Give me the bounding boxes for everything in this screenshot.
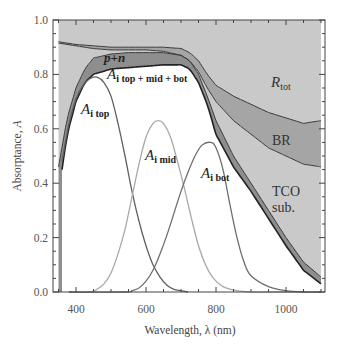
label-p-n: p+n bbox=[103, 50, 125, 65]
label-a-i-bot-sub: i bot bbox=[210, 172, 230, 183]
label-a-i-total-sub: i top + mid + bot bbox=[116, 73, 188, 84]
y-tick-label: 0.4 bbox=[34, 177, 49, 189]
label-tco: TCO bbox=[272, 184, 300, 199]
label-br: BR bbox=[272, 133, 291, 148]
absorptance-chart: 0.0 0.2 0.4 0.6 0.8 1.0 400 600 800 1000… bbox=[0, 0, 340, 347]
y-tick-label: 1.0 bbox=[34, 14, 49, 26]
y-tick-label: 0.0 bbox=[34, 286, 49, 298]
label-a-i-top-sub: i top bbox=[90, 108, 110, 119]
x-tick-label: 400 bbox=[67, 303, 85, 315]
y-axis-title: Absorptance, A bbox=[11, 120, 24, 192]
label-sub: sub. bbox=[272, 200, 295, 215]
x-tick-label: 600 bbox=[137, 303, 155, 315]
y-axis-title-var: A bbox=[11, 120, 23, 129]
x-tick-label: 800 bbox=[207, 303, 225, 315]
y-axis-title-text: Absorptance, bbox=[11, 128, 24, 192]
y-tick-label: 0.6 bbox=[34, 123, 49, 135]
x-axis-title: Wavelength, λ (nm) bbox=[144, 324, 235, 337]
label-r-tot-main: R bbox=[270, 74, 280, 90]
x-tick-label: 1000 bbox=[275, 303, 298, 315]
y-tick-label: 0.8 bbox=[34, 68, 49, 80]
y-tick-label: 0.2 bbox=[34, 232, 49, 244]
label-a-i-mid-sub: i mid bbox=[154, 154, 176, 165]
label-r-tot-sub: tot bbox=[280, 81, 291, 92]
x-tick-labels: 400 600 800 1000 bbox=[67, 303, 297, 315]
y-tick-labels: 0.0 0.2 0.4 0.6 0.8 1.0 bbox=[34, 14, 49, 298]
